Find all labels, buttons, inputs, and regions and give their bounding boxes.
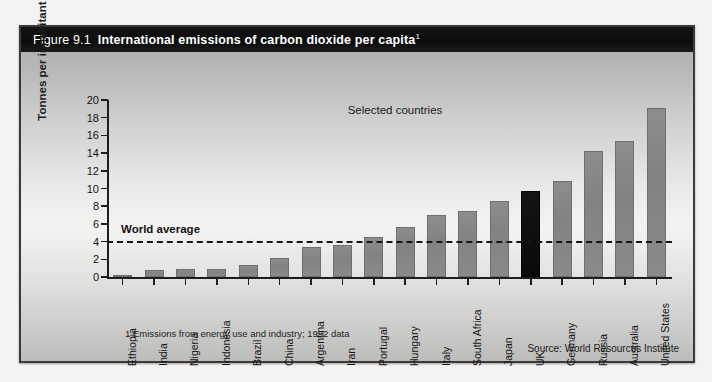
x-tick-nigeria xyxy=(185,279,187,285)
figure-title-text: International emissions of carbon dioxid… xyxy=(98,33,416,47)
x-label-india: India xyxy=(158,343,168,366)
x-tick-russia xyxy=(593,279,595,285)
x-tick-indonesia xyxy=(216,279,218,285)
y-tick-label-4: 4 xyxy=(71,237,99,247)
bar-russia xyxy=(584,151,603,277)
x-tick-uk xyxy=(530,279,532,285)
bar-italy xyxy=(427,215,446,277)
figure-source: Source: World Resources Institute xyxy=(527,343,679,354)
x-tick-india xyxy=(153,279,155,285)
bar-uk xyxy=(521,191,540,277)
x-tick-united-states xyxy=(656,279,658,285)
world-average-line xyxy=(107,241,672,243)
x-tick-brazil xyxy=(248,279,250,285)
y-axis-tick-labels: 02468101214161820 xyxy=(67,52,99,361)
y-tick-label-20: 20 xyxy=(71,95,99,105)
x-tick-hungary xyxy=(404,279,406,285)
y-tick-label-8: 8 xyxy=(71,201,99,211)
x-label-brazil: Brazil xyxy=(252,340,262,366)
x-tick-italy xyxy=(436,279,438,285)
x-tick-ethiopia xyxy=(122,279,124,285)
x-label-united-states: United States xyxy=(660,303,670,366)
page-background: Figure 9.1International emissions of car… xyxy=(0,0,712,382)
x-label-italy: Italy xyxy=(441,347,451,366)
bar-germany xyxy=(553,181,572,277)
plot-area: Selected countries Tonnes per inhabitant… xyxy=(21,52,693,361)
y-tick-label-16: 16 xyxy=(71,130,99,140)
x-label-portugal: Portugal xyxy=(378,327,388,366)
y-tick-label-0: 0 xyxy=(71,272,99,282)
x-label-south-africa: South Africa xyxy=(472,309,482,366)
y-axis-title: Tonnes per inhabitant xyxy=(34,0,50,136)
x-tick-china xyxy=(279,279,281,285)
bar-portugal xyxy=(364,237,383,277)
bar-argentina xyxy=(302,247,321,277)
x-tick-argentina xyxy=(310,279,312,285)
x-axis-line xyxy=(107,277,672,279)
x-label-hungary: Hungary xyxy=(409,326,419,366)
bar-nigeria xyxy=(176,269,195,277)
x-tick-portugal xyxy=(373,279,375,285)
y-tick-label-12: 12 xyxy=(71,166,99,176)
bar-united-states xyxy=(647,108,666,277)
bar-ethiopia xyxy=(113,275,132,277)
x-tick-japan xyxy=(499,279,501,285)
figure-footnote: 1 Emissions from energy use and industry… xyxy=(125,328,349,339)
x-tick-south-africa xyxy=(467,279,469,285)
world-average-label: World average xyxy=(121,223,200,235)
x-label-china: China xyxy=(284,339,294,366)
bar-brazil xyxy=(239,265,258,277)
figure-title-footnote-marker: 1 xyxy=(415,32,420,41)
bar-china xyxy=(270,258,289,277)
figure-panel: Figure 9.1International emissions of car… xyxy=(19,25,695,363)
bar-hungary xyxy=(396,227,415,277)
bar-japan xyxy=(490,201,509,277)
y-tick-label-2: 2 xyxy=(71,254,99,264)
x-label-japan: Japan xyxy=(503,337,513,366)
bar-australia xyxy=(615,141,634,277)
y-tick-label-18: 18 xyxy=(71,113,99,123)
y-tick-label-14: 14 xyxy=(71,148,99,158)
y-tick-label-6: 6 xyxy=(71,219,99,229)
y-tick-label-10: 10 xyxy=(71,184,99,194)
bar-series xyxy=(107,100,672,277)
bar-indonesia xyxy=(207,269,226,277)
figure-title: Figure 9.1International emissions of car… xyxy=(21,32,420,47)
x-tick-germany xyxy=(561,279,563,285)
x-label-iran: Iran xyxy=(346,348,356,366)
x-tick-iran xyxy=(342,279,344,285)
bar-south-africa xyxy=(458,211,477,277)
bar-iran xyxy=(333,245,352,277)
figure-title-bar: Figure 9.1International emissions of car… xyxy=(21,27,693,52)
x-tick-australia xyxy=(624,279,626,285)
bar-india xyxy=(145,270,164,277)
